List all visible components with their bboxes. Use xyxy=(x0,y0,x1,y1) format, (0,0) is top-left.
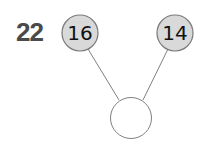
left-connector-line xyxy=(88,49,119,100)
number-bond-diagram: 16 14 xyxy=(0,0,218,143)
part-left-value: 16 xyxy=(67,21,92,45)
whole-circle[interactable] xyxy=(111,98,152,139)
part-right-value: 14 xyxy=(162,21,187,45)
part-circle-left: 16 xyxy=(62,15,98,51)
part-circle-right: 14 xyxy=(157,15,193,51)
right-connector-line xyxy=(143,49,168,100)
